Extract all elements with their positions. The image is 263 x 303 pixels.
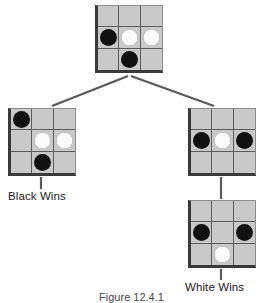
black-wins-label: Black Wins (8, 190, 66, 202)
board-cell[interactable] (191, 109, 212, 130)
right-grandchild-position (188, 200, 256, 268)
board-cell[interactable] (234, 130, 255, 151)
black-stone-icon (34, 154, 51, 171)
board-cell[interactable] (119, 6, 140, 27)
board-cell[interactable] (234, 244, 255, 265)
board-cell[interactable] (141, 27, 162, 48)
board-cell[interactable] (191, 222, 212, 243)
root-position (95, 5, 163, 73)
white-stone-icon (56, 132, 73, 149)
board-cell[interactable] (11, 109, 32, 130)
board-cell[interactable] (54, 152, 75, 173)
board-cell[interactable] (212, 244, 233, 265)
board-cell[interactable] (98, 49, 119, 70)
board-cell[interactable] (191, 152, 212, 173)
left-child-position (8, 108, 76, 176)
black-stone-icon (13, 111, 30, 128)
board-cell[interactable] (54, 109, 75, 130)
board-cell[interactable] (11, 152, 32, 173)
board-cell[interactable] (191, 244, 212, 265)
board-cell[interactable] (234, 201, 255, 222)
board-cell[interactable] (234, 222, 255, 243)
board-cell[interactable] (234, 109, 255, 130)
right-child-position (188, 108, 256, 176)
board-cell[interactable] (212, 152, 233, 173)
board-cell[interactable] (32, 109, 53, 130)
black-stone-icon (236, 132, 253, 149)
board-cell[interactable] (212, 201, 233, 222)
board-cell[interactable] (191, 130, 212, 151)
black-stone-icon (100, 29, 117, 46)
white-stone-icon (121, 29, 138, 46)
black-stone-icon (121, 51, 138, 68)
board-cell[interactable] (212, 222, 233, 243)
board-cell[interactable] (98, 6, 119, 27)
board-cell[interactable] (141, 6, 162, 27)
board-cell[interactable] (141, 49, 162, 70)
board-cell[interactable] (98, 27, 119, 48)
white-stone-icon (214, 246, 231, 263)
board-cell[interactable] (119, 49, 140, 70)
board-cell[interactable] (54, 130, 75, 151)
board-cell[interactable] (234, 152, 255, 173)
board-cell[interactable] (212, 109, 233, 130)
black-stone-icon (193, 132, 210, 149)
white-stone-icon (143, 29, 160, 46)
board-cell[interactable] (11, 130, 32, 151)
board-cell[interactable] (191, 201, 212, 222)
board-cell[interactable] (32, 130, 53, 151)
black-stone-icon (193, 224, 210, 241)
figure-caption: Figure 12.4.1 (0, 291, 263, 303)
white-stone-icon (214, 132, 231, 149)
game-tree-figure: Black WinsWhite Wins Figure 12.4.1 (0, 0, 263, 303)
connector-root-to-left (52, 76, 128, 106)
board-cell[interactable] (212, 130, 233, 151)
board-cell[interactable] (119, 27, 140, 48)
white-stone-icon (34, 132, 51, 149)
black-stone-icon (236, 224, 253, 241)
connector-root-to-right (131, 76, 214, 106)
board-cell[interactable] (32, 152, 53, 173)
